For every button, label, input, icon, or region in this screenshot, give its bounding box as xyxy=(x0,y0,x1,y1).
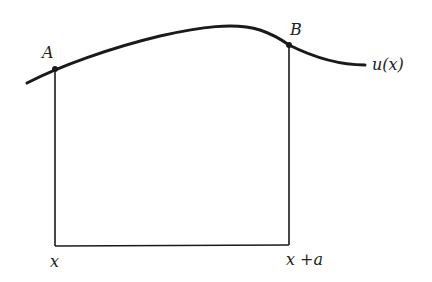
x-label: x xyxy=(50,252,59,271)
point-a-marker xyxy=(52,66,58,72)
point-b-marker xyxy=(286,42,292,48)
diagram-canvas: A B u(x) x x +a xyxy=(0,0,432,282)
curve-label: u(x) xyxy=(372,55,404,74)
curve-u-of-x xyxy=(27,26,365,83)
x-plus-a-label: x +a xyxy=(286,250,323,269)
base-line xyxy=(55,245,289,246)
point-a-label: A xyxy=(40,43,54,62)
point-b-label: B xyxy=(289,20,302,39)
